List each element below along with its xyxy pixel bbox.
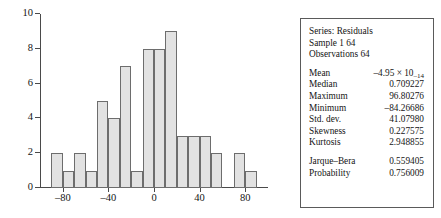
- stats-row: Minimum–84.26686: [309, 103, 433, 115]
- stats-row-label: Minimum: [309, 103, 346, 115]
- stats-row-label: Maximum: [309, 91, 348, 103]
- histogram-bar: [177, 136, 188, 188]
- histogram-bar: [97, 101, 108, 188]
- stats-row-value: 41.07980: [389, 114, 424, 126]
- statistics-panel: Series: Residuals Sample 1 64 Observatio…: [300, 18, 434, 208]
- plot-area: 0246810 –80–4004080: [40, 14, 268, 188]
- stats-row: Jarque–Bera0.559405: [309, 156, 433, 168]
- histogram-bars: [40, 14, 268, 188]
- stats-series-line: Series: Residuals: [309, 26, 433, 38]
- y-tick-label: 8: [28, 43, 33, 54]
- stats-row-label: Kurtosis: [309, 137, 341, 149]
- stats-spacer-mid: [309, 149, 433, 156]
- stats-row-label: Skewness: [309, 126, 346, 138]
- stats-observations-line: Observations 64: [309, 49, 433, 61]
- x-tick-label: –40: [101, 193, 117, 204]
- histogram-figure: 0246810 –80–4004080: [0, 0, 290, 218]
- stats-row-value: –84.26686: [384, 103, 424, 115]
- x-tick-label: –80: [55, 193, 71, 204]
- y-tick-label: 2: [28, 147, 33, 158]
- stats-row: Median0.709227: [309, 79, 433, 91]
- histogram-bar: [211, 153, 222, 188]
- stats-row: Std. dev.41.07980: [309, 114, 433, 126]
- stats-row: Kurtosis2.948855: [309, 137, 433, 149]
- stats-row-value: 2.948855: [389, 137, 424, 149]
- histogram-bar: [63, 171, 74, 188]
- y-tick-label: 0: [28, 182, 33, 193]
- x-tick-label: 80: [240, 193, 251, 204]
- stats-moments-group: Mean–4.95 × 10–14Median0.709227Maximum96…: [309, 68, 433, 149]
- stats-row: Probability0.756009: [309, 168, 433, 180]
- histogram-bar: [131, 171, 142, 188]
- stats-row: Maximum96.80276: [309, 91, 433, 103]
- y-tick-label: 6: [28, 77, 33, 88]
- x-tick-label: 0: [151, 193, 156, 204]
- stats-row: Skewness0.227575: [309, 126, 433, 138]
- stats-row-label: Mean: [309, 68, 330, 80]
- histogram-bar: [154, 49, 165, 188]
- stats-spacer-top: [309, 61, 433, 68]
- x-tick-label: 40: [194, 193, 205, 204]
- y-tick-label: 4: [28, 112, 33, 123]
- histogram-bar: [143, 49, 154, 188]
- stats-test-group: Jarque–Bera0.559405Probability0.756009: [309, 156, 433, 179]
- stats-row-label: Std. dev.: [309, 114, 341, 126]
- stats-row-label: Median: [309, 79, 337, 91]
- histogram-bar: [165, 31, 176, 188]
- stats-header: Series: Residuals Sample 1 64 Observatio…: [309, 26, 433, 61]
- y-tick-label: 10: [23, 8, 34, 19]
- histogram-bar: [120, 66, 131, 188]
- stats-sample-line: Sample 1 64: [309, 38, 433, 50]
- histogram-bar: [86, 171, 97, 188]
- histogram-bar: [74, 153, 85, 188]
- histogram-bar: [245, 171, 256, 188]
- stats-row-label: Probability: [309, 168, 350, 180]
- histogram-bar: [234, 153, 245, 188]
- stats-row-value: 0.709227: [389, 79, 424, 91]
- stats-row-value: 96.80276: [389, 91, 424, 103]
- stats-row: Mean–4.95 × 10–14: [309, 68, 433, 80]
- histogram-bar: [108, 118, 119, 188]
- histogram-bar: [200, 136, 211, 188]
- stats-row-value: 0.227575: [389, 126, 424, 138]
- stats-row-label: Jarque–Bera: [309, 156, 355, 168]
- stats-row-value: 0.756009: [389, 168, 424, 180]
- stats-row-value: 0.559405: [389, 156, 424, 168]
- histogram-bar: [51, 153, 62, 188]
- histogram-bar: [188, 136, 199, 188]
